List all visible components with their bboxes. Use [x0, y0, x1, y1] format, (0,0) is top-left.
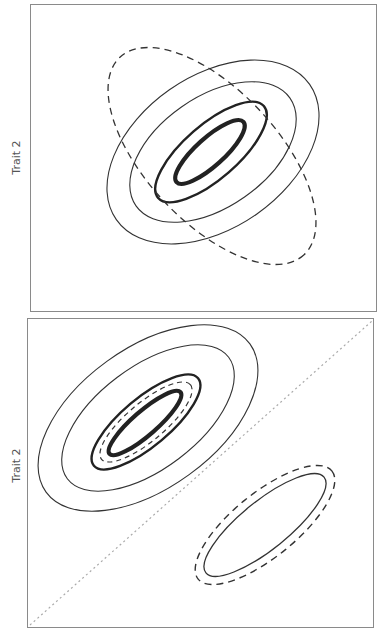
- inner-thick-contour: [102, 383, 189, 463]
- offset-solid-contour: [191, 459, 339, 592]
- middle-thin-contour: [37, 316, 260, 519]
- outer-thin-contour: [5, 287, 291, 548]
- inner-medium-contour: [78, 360, 213, 484]
- offset-dashed-contour: [178, 446, 352, 604]
- middle-thin-contour: [104, 53, 321, 251]
- inner-thick-contour: [167, 111, 253, 192]
- contour-plot-layer: [0, 0, 379, 640]
- diagonal-reference-line: [30, 321, 372, 625]
- inner-medium-contour: [140, 86, 281, 219]
- bottom-panel-contours: [5, 287, 372, 625]
- top-panel-contours: [72, 12, 354, 299]
